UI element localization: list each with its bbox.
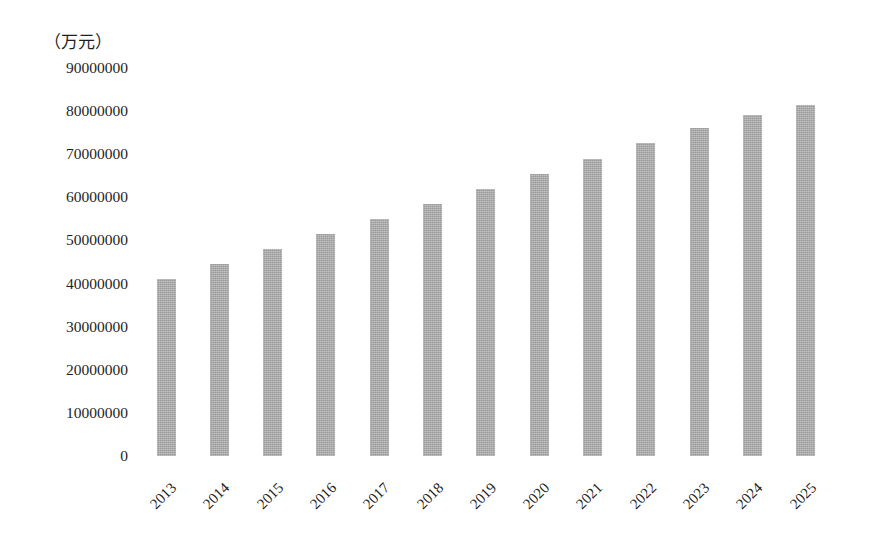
x-axis-tick-label: 2013	[138, 480, 180, 522]
bar	[476, 189, 495, 456]
x-axis-tick-label: 2019	[457, 480, 499, 522]
x-axis-tick-label: 2014	[191, 480, 233, 522]
bar	[370, 219, 389, 456]
x-axis-tick-label: 2017	[351, 480, 393, 522]
x-axis-tick-label: 2025	[777, 480, 819, 522]
bar-chart: （万元） 01000000020000000300000004000000050…	[0, 0, 890, 552]
y-axis-tick-label: 90000000	[10, 60, 128, 76]
bar	[157, 279, 176, 456]
x-axis-tick-label: 2021	[564, 480, 606, 522]
y-axis-tick-label: 20000000	[10, 362, 128, 378]
bar	[316, 234, 335, 456]
x-axis-tick-label: 2018	[404, 480, 446, 522]
bar	[743, 115, 762, 456]
bar	[263, 249, 282, 456]
x-axis-tick-label: 2023	[671, 480, 713, 522]
y-axis-tick-label: 10000000	[10, 405, 128, 421]
x-axis-tick-label: 2022	[617, 480, 659, 522]
x-axis-tick-label: 2016	[297, 480, 339, 522]
y-axis-tick-label: 80000000	[10, 103, 128, 119]
x-axis-tick-label: 2015	[244, 480, 286, 522]
x-axis: （年份） 20132014201520162017201820192020202…	[130, 456, 890, 552]
bar	[796, 105, 815, 456]
bar	[530, 174, 549, 456]
y-axis: 0100000002000000030000000400000005000000…	[0, 0, 128, 552]
x-axis-tick-label: 2020	[511, 480, 553, 522]
y-axis-tick-label: 30000000	[10, 319, 128, 335]
x-axis-tick-label: 2024	[724, 480, 766, 522]
y-axis-tick-label: 70000000	[10, 146, 128, 162]
y-axis-tick-label: 50000000	[10, 233, 128, 249]
y-axis-tick-label: 60000000	[10, 190, 128, 206]
bar	[690, 128, 709, 456]
bar	[423, 204, 442, 456]
bar	[636, 143, 655, 456]
y-axis-tick-label: 40000000	[10, 276, 128, 292]
plot-area	[130, 68, 830, 456]
bar	[583, 159, 602, 456]
y-axis-tick-label: 0	[10, 448, 128, 464]
bar	[210, 264, 229, 456]
